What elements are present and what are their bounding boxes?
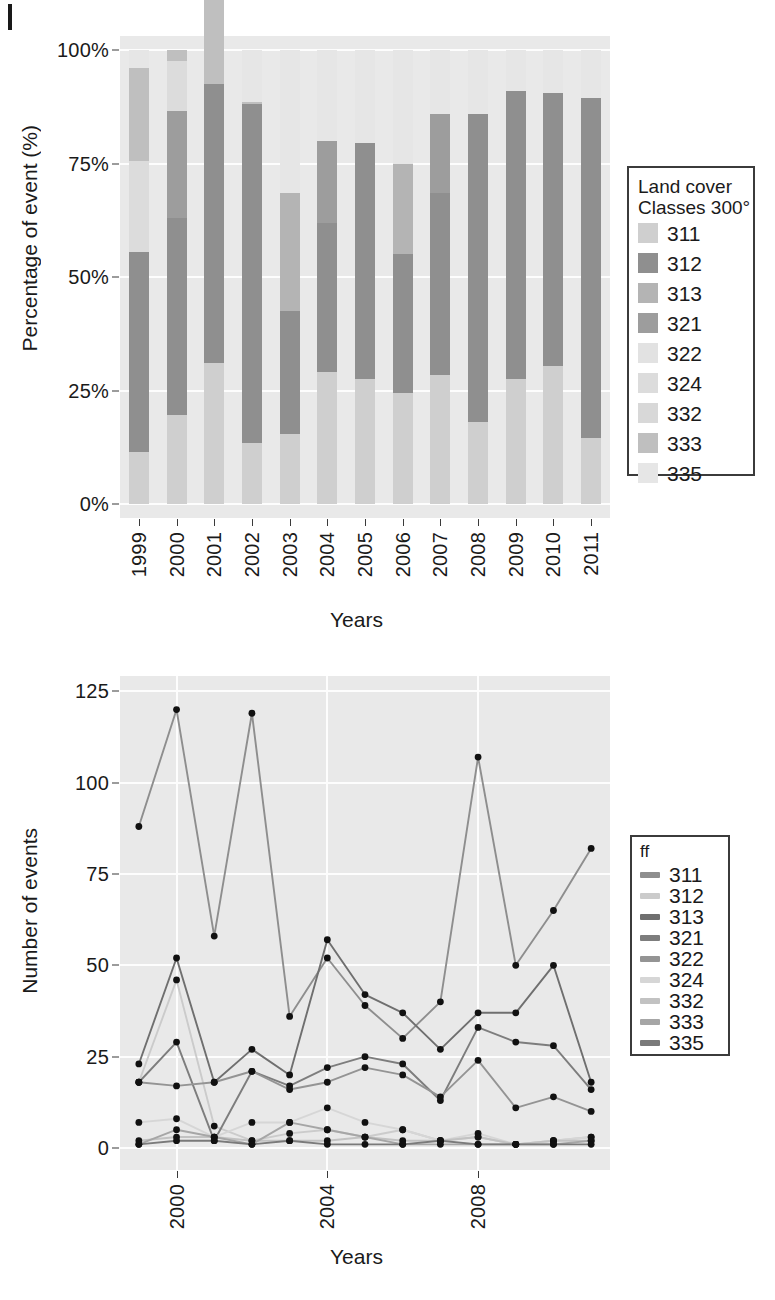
figure-page: 0%25%50%75%100% 199920002001200220032004… (0, 0, 775, 1300)
top-bar-segment (430, 50, 450, 114)
bottom-legend-title: ff (640, 843, 720, 861)
top-x-tick-mark (327, 519, 328, 526)
bottom-data-point (249, 1046, 256, 1053)
top-legend-item-label: 311 (667, 223, 700, 244)
top-bar[interactable] (506, 50, 526, 504)
top-y-tick-mark (112, 50, 119, 51)
bottom-data-point (286, 1013, 293, 1020)
top-bar-segment (129, 252, 149, 452)
legend-line-icon (640, 893, 660, 899)
bottom-legend-item[interactable]: 324 (640, 969, 720, 990)
top-x-tick-mark (139, 519, 140, 526)
top-bar-segment (317, 141, 337, 223)
top-legend-item[interactable]: 333 (638, 428, 744, 458)
bottom-legend-item[interactable]: 335 (640, 1032, 720, 1053)
bottom-data-point (249, 710, 256, 717)
bottom-data-point (173, 1137, 180, 1144)
bottom-data-point (512, 1039, 519, 1046)
legend-line-icon (640, 914, 660, 920)
top-bar-segment (393, 254, 413, 392)
bottom-data-point (173, 706, 180, 713)
top-bar-segment (430, 193, 450, 375)
top-legend-items: 311312313321322324332333335 (638, 218, 744, 488)
top-bar-segment (242, 50, 262, 102)
top-bar[interactable] (430, 50, 450, 504)
top-bar[interactable] (204, 50, 224, 504)
top-x-tick-mark (214, 519, 215, 526)
bottom-legend-item-label: 332 (669, 990, 704, 1011)
top-bar-segment (280, 50, 300, 193)
top-bar-segment (430, 375, 450, 504)
bottom-data-point (475, 1141, 482, 1148)
legend-swatch-icon (638, 223, 658, 243)
bottom-data-point (362, 991, 369, 998)
top-bar-segment (506, 50, 526, 91)
top-bar-segment (355, 50, 375, 143)
bottom-data-point (249, 1068, 256, 1075)
bottom-data-point (211, 1079, 218, 1086)
top-bar[interactable] (393, 50, 413, 504)
bottom-legend-item[interactable]: 311 (640, 864, 720, 885)
top-legend-item-label: 313 (667, 283, 702, 304)
top-y-tick-mark (112, 504, 119, 505)
bottom-data-point (173, 1039, 180, 1046)
top-legend-item[interactable]: 312 (638, 248, 744, 278)
top-bar[interactable] (242, 50, 262, 504)
bottom-legend-item[interactable]: 312 (640, 885, 720, 906)
legend-swatch-icon (638, 253, 658, 273)
top-bar[interactable] (129, 50, 149, 504)
legend-swatch-icon (638, 433, 658, 453)
bottom-data-point (324, 1064, 331, 1071)
bottom-data-point (437, 1046, 444, 1053)
top-bar-segment (317, 50, 337, 141)
bottom-data-point (588, 1086, 595, 1093)
legend-swatch-icon (638, 403, 658, 423)
top-legend-item[interactable]: 335 (638, 458, 744, 488)
top-legend-title-line1: Land cover (638, 176, 744, 197)
top-bar[interactable] (355, 50, 375, 504)
top-bar-segment (167, 218, 187, 415)
top-legend-item[interactable]: 313 (638, 278, 744, 308)
top-bar[interactable] (317, 50, 337, 504)
top-legend-item[interactable]: 324 (638, 368, 744, 398)
top-y-tick-mark (112, 390, 119, 391)
bottom-legend-item[interactable]: 333 (640, 1011, 720, 1032)
top-bar[interactable] (468, 50, 488, 504)
top-legend-item[interactable]: 332 (638, 398, 744, 428)
bottom-data-point (437, 1137, 444, 1144)
top-legend-item[interactable]: 321 (638, 308, 744, 338)
bottom-legend-item[interactable]: 322 (640, 948, 720, 969)
legend-line-icon (640, 956, 660, 962)
top-y-tick-label: 25% (68, 379, 109, 402)
bottom-data-point (512, 1104, 519, 1111)
top-legend-item[interactable]: 322 (638, 338, 744, 368)
bottom-data-point (550, 1042, 557, 1049)
bottom-legend[interactable]: ff 311312313321322324332333335 (630, 835, 730, 1056)
top-bar-segment (167, 415, 187, 504)
bottom-legend-item-label: 311 (669, 864, 702, 885)
top-bar-segment (317, 372, 337, 504)
bottom-data-point (211, 1123, 218, 1130)
bottom-data-point (512, 962, 519, 969)
top-bar[interactable] (581, 50, 601, 504)
top-bar[interactable] (543, 50, 563, 504)
bottom-data-point (550, 962, 557, 969)
top-bar[interactable] (280, 50, 300, 504)
bottom-legend-item[interactable]: 313 (640, 906, 720, 927)
top-x-tick-mark (365, 519, 366, 526)
top-legend[interactable]: Land cover Classes 300° 3113123133213223… (627, 166, 755, 476)
top-bar-segment (581, 98, 601, 439)
bottom-data-point (135, 1079, 142, 1086)
top-legend-item-label: 333 (667, 433, 702, 454)
top-bar-segment (129, 68, 149, 161)
top-bar-segment (280, 311, 300, 434)
bottom-legend-item[interactable]: 332 (640, 990, 720, 1011)
top-y-tick-label: 75% (68, 152, 109, 175)
bottom-data-point (135, 1061, 142, 1068)
top-legend-item[interactable]: 311 (638, 218, 744, 248)
bottom-legend-item[interactable]: 321 (640, 927, 720, 948)
legend-swatch-icon (638, 463, 658, 483)
top-bar-segment (242, 443, 262, 504)
top-legend-item-label: 332 (667, 403, 702, 424)
top-bar[interactable] (167, 50, 187, 504)
